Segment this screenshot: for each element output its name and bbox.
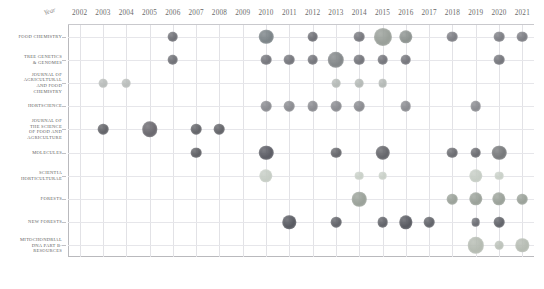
y-axis-tick-journal-agricultural-food-chemistry: JOURNAL OFAGRICULTURALAND FOODCHEMISTRY [0,72,62,94]
bubble-point[interactable] [517,31,528,42]
gridline-horizontal [68,153,534,154]
bubble-point[interactable] [374,28,392,46]
gridline-horizontal [68,106,534,107]
gridline-horizontal [68,37,534,38]
bubble-point[interactable] [99,79,108,88]
bubble-point[interactable] [98,124,109,135]
y-axis-tick-dash [62,176,66,177]
y-axis-tick-dash [62,106,66,107]
bubble-point[interactable] [191,147,202,158]
bubble-point[interactable] [122,79,131,88]
bubble-point[interactable] [447,31,458,42]
y-axis-tick-dash [62,199,66,200]
y-axis-tick-dash [62,83,66,84]
bubble-point[interactable] [331,217,342,228]
bubble-point[interactable] [352,192,367,207]
bubble-point[interactable] [377,54,388,65]
bubble-point[interactable] [354,101,365,112]
gridline-horizontal [68,129,534,130]
bubble-point[interactable] [168,54,179,65]
bubble-point[interactable] [355,79,364,88]
bubble-point[interactable] [331,101,342,112]
bubble-point[interactable] [471,218,480,227]
bubble-point[interactable] [284,101,295,112]
y-axis-tick-line: MOLECULES [0,150,62,156]
y-axis-tick-line: FORESTS [0,196,62,202]
bubble-point[interactable] [447,147,458,158]
bubble-point[interactable] [492,145,507,160]
y-axis-tick-food-chemistry: FOOD CHEMISTRY [0,34,62,40]
bubble-point[interactable] [494,217,505,228]
bubble-point[interactable] [168,31,179,42]
y-axis-tick-line: CHEMISTRY [0,89,62,95]
y-axis-tick-line: AGRICULTURE [0,135,62,141]
gridline-horizontal [68,222,534,223]
bubble-point[interactable] [191,124,202,135]
bubble-point[interactable] [492,192,505,205]
bubble-point[interactable] [307,31,318,42]
x-axis-tick-labels: 2002200320042005200620072008200920102011… [0,9,544,23]
y-axis-tick-dash [62,222,66,223]
bubble-point[interactable] [259,145,274,160]
bubble-point[interactable] [424,217,435,228]
gridline-horizontal [68,83,534,84]
bubble-point[interactable] [495,171,504,180]
plot-area [68,25,534,257]
bubble-point[interactable] [495,241,504,250]
bubble-point[interactable] [354,31,365,42]
gridline-horizontal [68,199,534,200]
y-axis-tick-dash [62,37,66,38]
y-axis-tick-tree-genetics-genomes: TREE GENETICS& GENOMES [0,54,62,65]
bubble-point[interactable] [142,122,158,138]
bubble-point[interactable] [516,239,529,252]
bubble-point[interactable] [259,29,274,44]
bubble-point[interactable] [261,54,272,65]
bubble-point[interactable] [494,31,505,42]
y-axis-tick-line: NEW FORESTS [0,219,62,225]
bubble-point[interactable] [469,169,482,182]
bubble-point[interactable] [283,215,296,228]
y-axis-tick-dash [62,60,66,61]
bubble-chart: Year 20022003200420052006200720082009201… [0,0,544,289]
bubble-point[interactable] [377,217,388,228]
bubble-point[interactable] [307,101,318,112]
bubble-point[interactable] [470,101,481,112]
y-axis-tick-line: & GENOMES [0,60,62,66]
y-axis-tick-forests: FORESTS [0,196,62,202]
y-axis-tick-hortscience: HORTSCIENCE [0,103,62,109]
bubble-point[interactable] [399,215,412,228]
y-axis-tick-dash [62,153,66,154]
y-axis-tick-line: RESOURCES [0,248,62,254]
bubble-point[interactable] [261,101,272,112]
bubble-point[interactable] [378,79,387,88]
y-axis-tick-journal-science-food-agriculture: JOURNAL OFTHE SCIENCEOF FOOD ANDAGRICULT… [0,118,62,140]
bubble-point[interactable] [214,124,225,135]
y-axis-tick-line: HORTICULTURAE [0,176,62,182]
y-axis-tick-new-forests: NEW FORESTS [0,219,62,225]
y-axis-tick-mitochondrial-dna-part-b-resources: MITOCHONDRIALDNA PART B-RESOURCES [0,237,62,254]
bubble-point[interactable] [517,194,528,205]
bubble-point[interactable] [469,192,482,205]
bubble-point[interactable] [354,54,365,65]
bubble-point[interactable] [401,101,412,112]
bubble-point[interactable] [470,147,481,158]
bubble-point[interactable] [284,54,295,65]
bubble-point[interactable] [375,145,390,160]
bubble-point[interactable] [355,171,364,180]
bubble-point[interactable] [332,79,341,88]
bubble-point[interactable] [494,54,505,65]
bubble-point[interactable] [259,169,272,182]
bubble-point[interactable] [399,30,412,43]
bubble-point[interactable] [328,52,344,68]
bubble-point[interactable] [331,147,342,158]
y-axis-tick-line: HORTSCIENCE [0,103,62,109]
y-axis-tick-line: FOOD CHEMISTRY [0,34,62,40]
bubble-point[interactable] [378,171,387,180]
x-axis-tick-2021: 2021 [502,9,542,17]
bubble-point[interactable] [307,54,318,65]
y-axis-tick-labels: FOOD CHEMISTRYTREE GENETICS& GENOMESJOUR… [0,25,66,257]
bubble-point[interactable] [468,237,484,253]
y-axis-tick-scientia-horticulturae: SCIENTIAHORTICULTURAE [0,170,62,181]
bubble-point[interactable] [401,54,412,65]
bubble-point[interactable] [447,194,458,205]
